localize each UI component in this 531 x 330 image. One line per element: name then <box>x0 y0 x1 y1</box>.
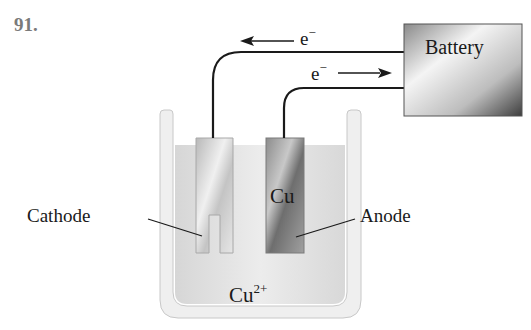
anode-material-label: Cu <box>270 184 295 209</box>
solution-ion-label: Cu2+ <box>229 282 267 308</box>
electrolytic-cell-diagram: 91. Battery e− e− Cu Cathode Anode Cu2+ <box>0 0 531 330</box>
ion-charge: 2+ <box>254 281 268 296</box>
electron-charge: − <box>308 25 315 40</box>
ion-symbol: Cu <box>229 283 254 307</box>
electron-charge: − <box>319 60 326 75</box>
electron-label-bottom: e− <box>311 61 327 85</box>
battery-label: Battery <box>425 36 484 59</box>
cathode-label: Cathode <box>27 205 90 227</box>
electron-arrow-right <box>338 68 392 78</box>
question-number: 91. <box>14 14 38 36</box>
wire-bottom <box>284 88 404 138</box>
wire-top <box>213 52 404 138</box>
electron-label-top: e− <box>300 26 316 50</box>
anode-label: Anode <box>360 205 411 227</box>
electron-arrow-left <box>240 36 294 46</box>
